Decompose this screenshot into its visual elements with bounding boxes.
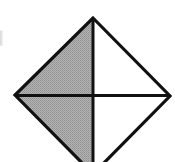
diamond-diagram xyxy=(0,0,175,162)
quadrant-lower-right xyxy=(93,95,170,162)
